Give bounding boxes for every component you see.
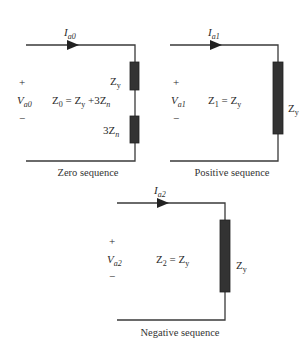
negative-impedance-zy-label: Zy [236, 259, 247, 276]
negative-resistor-zy [220, 220, 230, 292]
positive-current-label: Ia1 [208, 26, 220, 43]
zero-voltage-minus: − [19, 113, 25, 124]
positive-voltage-plus: + [173, 77, 179, 88]
zero-sequence-caption: Zero sequence [58, 167, 119, 178]
positive-equation: Z1 = Zy [208, 94, 241, 111]
positive-top-wire [170, 45, 278, 62]
negative-sequence-caption: Negative sequence [140, 327, 219, 338]
negative-voltage-label: Va2 [107, 253, 122, 270]
zero-resistor-zy [130, 62, 139, 90]
zero-impedance-zy-label: Zy [110, 75, 121, 92]
zero-resistor-3zn [130, 116, 139, 143]
negative-bottom-wire [117, 292, 225, 320]
positive-sequence-caption: Positive sequence [195, 167, 270, 178]
zero-top-wire [26, 45, 135, 62]
zero-current-label: Ia0 [64, 26, 76, 43]
negative-voltage-plus: + [109, 236, 115, 247]
positive-resistor-zy [273, 62, 283, 134]
positive-bottom-wire [170, 134, 278, 161]
zero-equation: Z0 = Zy +3Zn [52, 94, 110, 111]
positive-voltage-label: Va1 [171, 94, 186, 111]
zero-voltage-plus: + [19, 77, 25, 88]
negative-voltage-minus: − [109, 271, 115, 282]
negative-top-wire [117, 203, 225, 220]
positive-impedance-zy-label: Zy [288, 102, 299, 119]
zero-bottom-wire [26, 143, 135, 161]
negative-equation: Z2 = Zy [156, 253, 189, 270]
negative-current-label: Ia2 [154, 184, 166, 201]
positive-voltage-minus: − [173, 113, 179, 124]
zero-impedance-3zn-label: 3Zn [103, 124, 119, 141]
zero-voltage-label: Va0 [17, 94, 32, 111]
